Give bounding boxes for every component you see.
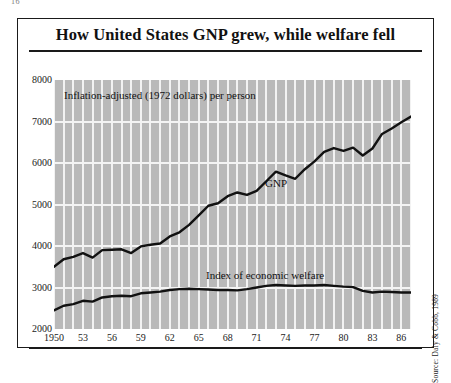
- x-axis-tick-label: 77: [310, 332, 320, 343]
- chart-title: How United States GNP grew, while welfar…: [18, 25, 433, 45]
- axis-baseline: [29, 348, 422, 349]
- plot-subtitle-note: Inflation-adjusted (1972 dollars) per pe…: [64, 89, 256, 101]
- x-axis-tick-label: 53: [78, 332, 88, 343]
- welfare-series-label: Index of economic welfare: [206, 269, 324, 281]
- x-axis-tick-label: 59: [136, 332, 146, 343]
- x-axis-tick-label: 56: [107, 332, 117, 343]
- y-axis-tick-label: 7000: [18, 116, 52, 127]
- y-axis-tick-label: 6000: [18, 157, 52, 168]
- x-axis-tick-label: 68: [223, 332, 233, 343]
- x-axis-tick-label: 80: [338, 332, 348, 343]
- title-divider: [29, 50, 422, 52]
- figure-frame: How United States GNP grew, while welfar…: [17, 18, 434, 348]
- x-axis-tick-label: 1950: [44, 332, 64, 343]
- x-axis-tick-label: 74: [281, 332, 291, 343]
- x-axis-tick-label: 83: [367, 332, 377, 343]
- welfare-line: [54, 285, 411, 310]
- source-credit: Source: Daly & Cobb, 1989: [431, 294, 440, 383]
- plot-area: Inflation-adjusted (1972 dollars) per pe…: [54, 80, 411, 329]
- x-axis-tick-label: 65: [194, 332, 204, 343]
- y-axis-tick-label: 5000: [18, 199, 52, 210]
- y-axis-tick-label: 3000: [18, 282, 52, 293]
- x-axis-tick-label: 86: [396, 332, 406, 343]
- y-axis-label-group: 8000700060005000400030002000: [18, 80, 52, 329]
- x-axis-tick-label: 62: [165, 332, 175, 343]
- x-axis-tick-label: 71: [252, 332, 262, 343]
- y-axis-tick-label: 8000: [18, 74, 52, 85]
- y-axis-tick-label: 4000: [18, 240, 52, 251]
- series-plot: [54, 80, 411, 329]
- page-number: 16: [11, 0, 20, 6]
- x-axis-label-group: 1950535659626568717477808386: [54, 332, 411, 346]
- gnp-series-label: GNP: [265, 177, 287, 189]
- gnp-line: [54, 117, 411, 267]
